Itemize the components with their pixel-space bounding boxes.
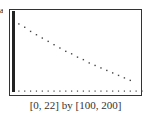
x-axis-tick — [124, 91, 125, 92]
data-point — [77, 56, 78, 57]
data-point — [130, 80, 131, 81]
data-point — [18, 23, 19, 24]
scatter-plot — [0, 0, 151, 114]
x-axis-tick — [59, 91, 60, 92]
data-point — [83, 59, 84, 60]
x-axis-tick — [24, 91, 25, 92]
x-axis-tick — [130, 91, 131, 92]
data-point — [71, 53, 72, 54]
data-point — [118, 75, 119, 76]
data-point — [42, 37, 43, 38]
data-point — [59, 47, 60, 48]
x-axis-tick — [112, 91, 113, 92]
x-axis-tick — [53, 91, 54, 92]
window-caption: [0, 22] by [100, 200] — [0, 99, 151, 111]
data-point — [94, 65, 95, 66]
x-axis-tick — [118, 91, 119, 92]
x-axis-tick — [94, 91, 95, 92]
x-axis-tick — [42, 91, 43, 92]
x-axis-tick — [30, 91, 31, 92]
data-point — [100, 67, 101, 68]
x-axis-tick — [100, 91, 101, 92]
data-point — [89, 62, 90, 63]
data-point — [30, 31, 31, 32]
x-axis-tick — [65, 91, 66, 92]
data-point — [106, 70, 107, 71]
x-axis-tick — [141, 91, 142, 92]
data-point — [47, 41, 48, 42]
x-axis-tick — [136, 91, 137, 92]
data-point — [124, 77, 125, 78]
x-axis-tick — [36, 91, 37, 92]
x-axis-tick — [89, 91, 90, 92]
x-axis-tick — [18, 91, 19, 92]
data-point — [24, 27, 25, 28]
data-point — [112, 72, 113, 73]
x-axis-tick — [48, 91, 49, 92]
x-axis-tick — [83, 91, 84, 92]
x-axis-tick — [77, 91, 78, 92]
data-point — [53, 44, 54, 45]
x-axis-tick — [71, 91, 72, 92]
data-point — [65, 51, 66, 52]
x-axis-tick — [106, 91, 107, 92]
data-point — [36, 34, 37, 35]
